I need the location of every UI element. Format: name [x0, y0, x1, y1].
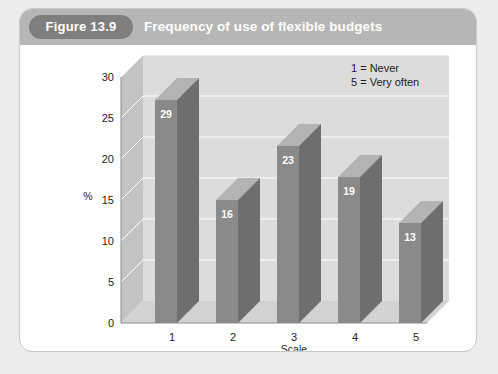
chart-area: 29 16 23 [20, 45, 477, 352]
x-tick-2: 2 [230, 331, 236, 343]
bar-4-side [360, 155, 382, 323]
y-tick-5: 5 [108, 276, 114, 288]
x-tick-3: 3 [291, 331, 297, 343]
legend-line-2: 5 = Very often [351, 76, 419, 88]
bar-4-value-label: 19 [343, 185, 355, 197]
y-tick-10: 10 [102, 235, 114, 247]
bar-1-front [155, 100, 177, 323]
x-axis-ticks: 1 2 3 4 5 [169, 331, 419, 343]
bar-column-4: 19 [338, 155, 382, 323]
x-tick-5: 5 [413, 331, 419, 343]
x-axis-title: Scale [281, 343, 307, 352]
bar-column-2: 16 [216, 178, 260, 323]
bar-4-front [338, 177, 360, 323]
figure-header-band: Figure 13.9 Frequency of use of flexible… [20, 9, 476, 45]
y-tick-20: 20 [102, 153, 114, 165]
y-axis-ticks: 0 5 10 15 20 25 30 [102, 71, 114, 329]
figure-number-badge: Figure 13.9 [29, 15, 133, 39]
bar-column-1: 29 [155, 78, 199, 323]
bar-1-value-label: 29 [160, 108, 172, 120]
bar-3-side [299, 124, 321, 323]
figure-title: Frequency of use of flexible budgets [144, 9, 382, 45]
bar-2-value-label: 16 [221, 208, 233, 220]
bar-column-3: 23 [277, 124, 321, 323]
bar-3-value-label: 23 [282, 154, 294, 166]
bar-column-5: 13 [399, 201, 443, 323]
y-tick-0: 0 [108, 317, 114, 329]
x-tick-4: 4 [352, 331, 358, 343]
bar-chart-3d: 29 16 23 [20, 45, 477, 352]
bar-1-side [177, 78, 199, 323]
bar-3-front [277, 146, 299, 323]
figure-card: Figure 13.9 Frequency of use of flexible… [19, 8, 477, 352]
legend-line-1: 1 = Never [351, 62, 399, 74]
x-tick-1: 1 [169, 331, 175, 343]
bar-2-side [238, 178, 260, 323]
y-tick-15: 15 [102, 194, 114, 206]
figure-screenshot: Figure 13.9 Frequency of use of flexible… [0, 0, 498, 374]
bar-5-value-label: 13 [404, 231, 416, 243]
y-tick-25: 25 [102, 112, 114, 124]
y-axis-title: % [83, 190, 92, 202]
y-tick-30: 30 [102, 71, 114, 83]
